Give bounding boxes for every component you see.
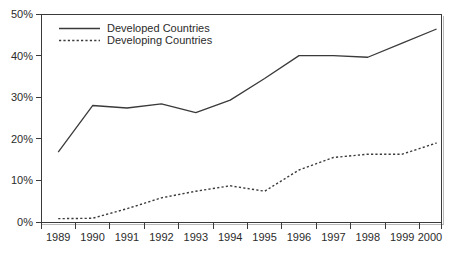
- y-axis-labels: 50% 40% 30% 20% 10% 0%: [11, 8, 33, 228]
- chart-legend: Developed Countries Developing Countries: [59, 22, 213, 46]
- x-axis-ticks: [41, 222, 441, 229]
- plot-frame: [41, 14, 443, 224]
- chart-container: 50% 40% 30% 20% 10% 0% 1989 1990: [0, 0, 453, 255]
- x-axis-label-1997: 1997: [321, 231, 345, 243]
- x-axis-label-1993: 1993: [184, 231, 208, 243]
- x-axis-label-1990: 1990: [80, 231, 104, 243]
- y-axis-label-30: 30%: [11, 91, 33, 103]
- x-axis-label-1991: 1991: [115, 231, 139, 243]
- data-series: [58, 29, 436, 219]
- frame-shadow-edge: [42, 16, 443, 224]
- series-line-developing: [58, 143, 436, 219]
- x-axis-label-1996: 1996: [287, 231, 311, 243]
- y-axis-label-20: 20%: [11, 133, 33, 145]
- plot-border: [41, 14, 441, 222]
- x-axis-label-1998: 1998: [356, 231, 380, 243]
- line-chart: 50% 40% 30% 20% 10% 0% 1989 1990: [0, 0, 453, 255]
- x-axis-label-1992: 1992: [149, 231, 173, 243]
- y-axis-label-10: 10%: [11, 174, 33, 186]
- y-axis-label-50: 50%: [11, 8, 33, 20]
- x-axis-label-1999: 1999: [390, 231, 414, 243]
- legend-label-developed: Developed Countries: [107, 22, 210, 34]
- y-axis-label-40: 40%: [11, 50, 33, 62]
- x-axis-label-2000: 2000: [418, 231, 442, 243]
- y-axis-ticks: [36, 14, 41, 222]
- x-axis-label-1995: 1995: [252, 231, 276, 243]
- series-line-developed: [58, 29, 436, 152]
- x-axis-labels: 1989 1990 1991 1992 1993 1994 1995 1996 …: [46, 231, 442, 243]
- x-axis-label-1989: 1989: [46, 231, 70, 243]
- x-axis-label-1994: 1994: [218, 231, 242, 243]
- legend-label-developing: Developing Countries: [107, 34, 213, 46]
- y-axis-label-0: 0%: [17, 216, 33, 228]
